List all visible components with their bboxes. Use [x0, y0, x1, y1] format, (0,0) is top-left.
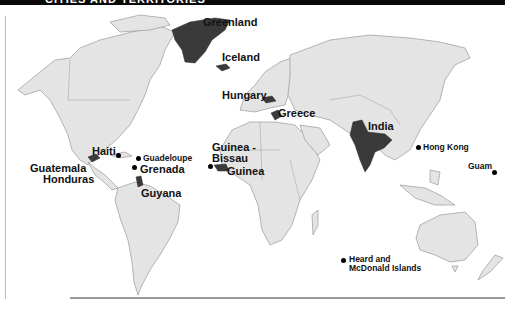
- label-grenada: Grenada: [140, 164, 185, 175]
- iceland-shape: [216, 64, 230, 71]
- label-guadeloupe: Guadeloupe: [143, 154, 192, 163]
- marker-grenada: [132, 165, 137, 170]
- label-haiti: Haiti: [92, 146, 116, 157]
- label-greenland: Greenland: [203, 17, 257, 28]
- label-guinea-bissau-line2: Bissau: [212, 153, 248, 164]
- marker-guinea-bissau: [208, 164, 213, 169]
- label-honduras: Honduras: [43, 174, 94, 185]
- label-hungary: Hungary: [222, 90, 267, 101]
- label-india: India: [368, 121, 394, 132]
- label-heard-line2: McDonald Islands: [349, 264, 421, 273]
- label-guam: Guam: [468, 162, 492, 171]
- marker-heard-mcdonald: [341, 258, 346, 263]
- marker-guam: [492, 170, 497, 175]
- marker-guadeloupe: [136, 156, 141, 161]
- label-hong-kong: Hong Kong: [423, 143, 469, 152]
- label-greece: Greece: [278, 108, 315, 119]
- label-guyana: Guyana: [141, 188, 181, 199]
- marker-haiti: [116, 153, 121, 158]
- marker-hong-kong: [416, 145, 421, 150]
- australia: [416, 212, 478, 262]
- world-map: [0, 0, 523, 316]
- label-iceland: Iceland: [222, 52, 260, 63]
- label-guinea: Guinea: [227, 166, 264, 177]
